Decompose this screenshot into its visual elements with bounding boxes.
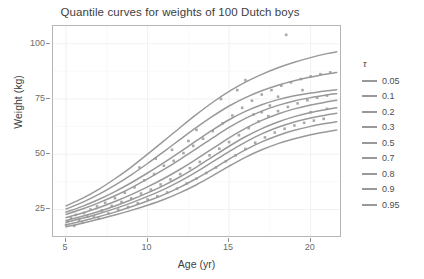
legend-item[interactable]: 0.3 — [362, 120, 422, 136]
data-point — [192, 145, 195, 148]
data-point — [260, 93, 263, 96]
data-point — [269, 104, 272, 107]
data-point — [104, 202, 107, 205]
legend-label: 0.3 — [382, 122, 395, 132]
x-tick-mark — [147, 238, 148, 242]
x-tick-label: 10 — [142, 242, 152, 252]
data-point — [218, 147, 221, 150]
legend-key-line-icon — [362, 142, 377, 144]
legend-item[interactable]: 0.8 — [362, 166, 422, 182]
legend-key-line-icon — [362, 188, 377, 190]
legend-title: τ — [362, 58, 422, 69]
x-tick-label: 5 — [63, 242, 68, 252]
data-point — [313, 119, 316, 122]
legend-items: 0.050.10.20.30.50.70.80.90.95 — [362, 73, 422, 213]
legend-item[interactable]: 0.95 — [362, 197, 422, 213]
legend-key-line-icon — [362, 111, 377, 113]
data-point — [238, 134, 241, 137]
data-point — [159, 183, 162, 186]
y-axis-label: Weight (kg) — [12, 62, 24, 142]
legend-item[interactable]: 0.5 — [362, 135, 422, 151]
data-point — [301, 89, 304, 92]
legend-item[interactable]: 0.7 — [362, 151, 422, 167]
data-point — [264, 136, 267, 139]
data-point — [293, 124, 296, 127]
data-point — [296, 102, 299, 105]
legend-item[interactable]: 0.2 — [362, 104, 422, 120]
legend-key-line-icon — [362, 95, 377, 97]
x-tick-mark — [310, 238, 311, 242]
x-tick-label: 20 — [305, 242, 315, 252]
x-tick-mark — [228, 238, 229, 242]
legend-item[interactable]: 0.05 — [362, 73, 422, 89]
legend: τ 0.050.10.20.30.50.70.80.90.95 — [362, 58, 422, 213]
data-point — [283, 127, 286, 130]
data-point — [228, 141, 231, 144]
legend-label: 0.5 — [382, 138, 395, 148]
legend-item[interactable]: 0.9 — [362, 182, 422, 198]
data-point — [241, 106, 244, 109]
data-point — [277, 110, 280, 113]
data-point — [236, 89, 239, 92]
legend-label: 0.1 — [382, 91, 395, 101]
data-point — [306, 99, 309, 102]
data-point — [140, 192, 143, 195]
data-point — [231, 114, 234, 117]
data-point — [270, 89, 273, 92]
data-point — [273, 131, 276, 134]
x-tick-mark — [65, 238, 66, 242]
data-point — [208, 154, 211, 157]
legend-key-line-icon — [362, 157, 377, 159]
x-tick-label: 15 — [223, 242, 233, 252]
plot-area — [53, 26, 340, 236]
data-point — [114, 197, 117, 200]
legend-key-line-icon — [362, 173, 377, 175]
legend-label: 0.9 — [382, 184, 395, 194]
x-axis-label: Age (yr) — [52, 258, 341, 270]
legend-label: 0.7 — [382, 153, 395, 163]
data-point — [322, 118, 325, 121]
legend-key-line-icon — [362, 80, 377, 82]
data-point — [163, 164, 166, 167]
legend-label: 0.2 — [382, 107, 395, 117]
data-point — [287, 106, 290, 109]
data-point — [251, 99, 254, 102]
legend-label: 0.95 — [382, 200, 400, 210]
legend-item[interactable]: 0.1 — [362, 89, 422, 105]
data-point — [189, 167, 192, 170]
data-point — [169, 178, 172, 181]
data-point — [182, 152, 185, 155]
data-point — [303, 122, 306, 125]
data-point — [187, 140, 190, 143]
data-point — [179, 173, 182, 176]
legend-key-line-icon — [362, 126, 377, 128]
data-point — [285, 34, 288, 37]
data-point — [198, 161, 201, 164]
chart-root: Quantile curves for weights of 100 Dutch… — [0, 0, 424, 279]
data-point — [171, 148, 174, 151]
legend-label: 0.8 — [382, 169, 395, 179]
data-point — [172, 160, 175, 163]
legend-key-line-icon — [362, 204, 377, 206]
data-point — [277, 95, 280, 98]
legend-label: 0.05 — [382, 76, 400, 86]
plot-panel — [52, 25, 341, 237]
